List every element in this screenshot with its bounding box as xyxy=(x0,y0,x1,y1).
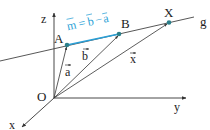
point-b-label: B xyxy=(121,16,130,31)
direction-vector-m xyxy=(67,34,119,45)
svg-text:m: m xyxy=(66,17,79,33)
diagram-canvas: z y x O A B X g a b x m = b − a xyxy=(0,0,210,130)
vector-x-label: x xyxy=(130,52,136,66)
svg-text:=: = xyxy=(77,16,87,31)
point-x-label: X xyxy=(164,5,174,20)
direction-vector-equation: m = b − a xyxy=(66,11,111,34)
x-axis-label: x xyxy=(9,118,15,130)
svg-text:a: a xyxy=(102,11,111,26)
z-axis-label: z xyxy=(41,12,46,26)
vector-b-label: b xyxy=(82,49,89,63)
svg-text:a: a xyxy=(65,65,71,79)
point-x xyxy=(167,20,172,25)
line-g-label: g xyxy=(200,14,207,29)
point-a xyxy=(65,43,70,48)
vector-b xyxy=(54,36,118,98)
y-axis-label: y xyxy=(174,100,180,114)
svg-text:x: x xyxy=(130,52,136,66)
svg-text:b: b xyxy=(82,49,88,63)
point-b xyxy=(117,32,122,37)
origin-label: O xyxy=(37,89,46,104)
vector-a-label: a xyxy=(65,65,71,79)
point-a-label: A xyxy=(54,31,64,46)
